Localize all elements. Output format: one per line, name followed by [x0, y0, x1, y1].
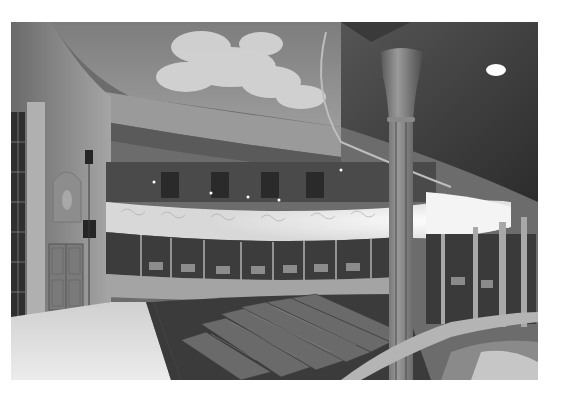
speaker-upper — [85, 150, 93, 164]
stage-floor — [11, 302, 171, 380]
ceiling-light — [486, 64, 506, 76]
theatre-scene — [11, 22, 538, 380]
pilaster — [27, 102, 45, 320]
theatre-photo — [11, 22, 538, 380]
